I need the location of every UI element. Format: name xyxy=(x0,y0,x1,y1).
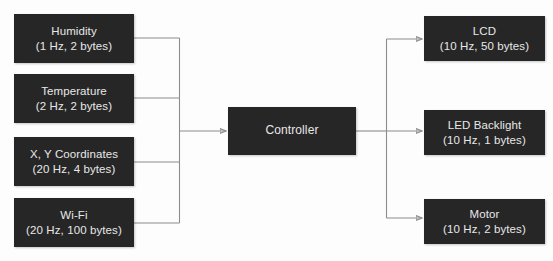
output-node-led-backlight[interactable]: LED Backlight (10 Hz, 1 bytes) xyxy=(424,110,545,155)
input-node-coordinates-title: X, Y Coordinates xyxy=(30,147,118,162)
output-node-motor-spec: (10 Hz, 2 bytes) xyxy=(443,222,526,237)
output-node-lcd-title: LCD xyxy=(473,24,496,39)
input-node-temperature-title: Temperature xyxy=(41,84,107,99)
controller-node-title: Controller xyxy=(265,123,318,138)
output-node-motor-title: Motor xyxy=(470,207,500,222)
output-node-led-backlight-spec: (10 Hz, 1 bytes) xyxy=(443,133,526,148)
output-node-motor[interactable]: Motor (10 Hz, 2 bytes) xyxy=(424,199,545,244)
input-node-wifi[interactable]: Wi-Fi (20 Hz, 100 bytes) xyxy=(14,198,134,247)
input-node-humidity-spec: (1 Hz, 2 bytes) xyxy=(36,39,112,54)
controller-node[interactable]: Controller xyxy=(228,107,356,155)
output-node-led-backlight-title: LED Backlight xyxy=(448,118,522,133)
input-node-humidity[interactable]: Humidity (1 Hz, 2 bytes) xyxy=(14,14,134,63)
input-node-wifi-title: Wi-Fi xyxy=(60,208,87,223)
input-node-temperature-spec: (2 Hz, 2 bytes) xyxy=(36,99,112,114)
input-node-coordinates[interactable]: X, Y Coordinates (20 Hz, 4 bytes) xyxy=(14,137,134,186)
output-node-lcd-spec: (10 Hz, 50 bytes) xyxy=(440,39,529,54)
block-diagram: Humidity (1 Hz, 2 bytes) Temperature (2 … xyxy=(0,0,553,261)
input-node-temperature[interactable]: Temperature (2 Hz, 2 bytes) xyxy=(14,74,134,123)
input-node-coordinates-spec: (20 Hz, 4 bytes) xyxy=(33,162,116,177)
input-node-wifi-spec: (20 Hz, 100 bytes) xyxy=(26,223,122,238)
input-node-humidity-title: Humidity xyxy=(51,24,97,39)
output-node-lcd[interactable]: LCD (10 Hz, 50 bytes) xyxy=(424,16,545,61)
